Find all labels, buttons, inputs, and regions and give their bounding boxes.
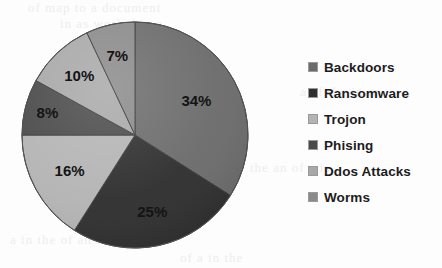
legend-swatch-icon (308, 62, 318, 72)
legend-item-ransomware[interactable]: Ransomware (308, 80, 438, 106)
legend-item-label: Backdoors (324, 60, 395, 75)
pie-chart: 34%25%16%8%10%7% (0, 0, 290, 268)
pie-label-ddos-attacks: 10% (64, 67, 94, 84)
chart-legend: BackdoorsRansomwareTrojonPhisingDdos Att… (308, 54, 438, 210)
pie-label-ransomware: 25% (137, 203, 167, 220)
legend-swatch-icon (308, 114, 318, 124)
legend-item-backdoors[interactable]: Backdoors (308, 54, 438, 80)
pie-label-backdoors: 34% (181, 92, 211, 109)
legend-item-worms[interactable]: Worms (308, 184, 438, 210)
legend-item-ddos-attacks[interactable]: Ddos Attacks (308, 158, 438, 184)
legend-swatch-icon (308, 166, 318, 176)
legend-item-label: Ransomware (324, 86, 409, 101)
legend-item-label: Trojon (324, 112, 366, 127)
pie-chart-svg: 34%25%16%8%10%7% (0, 0, 290, 268)
pie-label-worms: 7% (106, 47, 128, 64)
chart-page: of map to a document in as work d in a a… (0, 0, 442, 268)
pie-label-trojon: 16% (55, 162, 85, 179)
legend-item-phising[interactable]: Phising (308, 132, 438, 158)
legend-swatch-icon (308, 192, 318, 202)
legend-item-label: Worms (324, 190, 370, 205)
legend-swatch-icon (308, 140, 318, 150)
legend-item-label: Phising (324, 138, 373, 153)
legend-swatch-icon (308, 88, 318, 98)
pie-sheen-overlay (22, 22, 248, 248)
pie-label-phising: 8% (37, 104, 59, 121)
legend-item-label: Ddos Attacks (324, 164, 411, 179)
legend-item-trojon[interactable]: Trojon (308, 106, 438, 132)
